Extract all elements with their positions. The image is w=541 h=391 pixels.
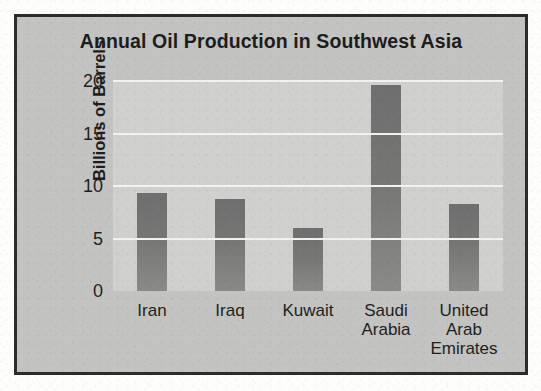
x-label-line: Emirates (430, 339, 497, 358)
x-label-line: Kuwait (282, 301, 333, 320)
chart-screenshot: Annual Oil Production in Southwest Asia … (0, 0, 541, 391)
x-label-line: Arabia (361, 320, 410, 339)
x-label-line: Saudi (364, 301, 407, 320)
bar-united-arab-emirates (449, 204, 479, 291)
x-label-line: Arab (446, 320, 482, 339)
plot-area: Country IranIraqKuwaitSaudiArabiaUnitedA… (113, 81, 503, 291)
x-axis-label-united-arab-emirates: UnitedArabEmirates (416, 301, 512, 358)
y-axis-tick-5: 5 (63, 230, 103, 248)
bar-saudi-arabia (371, 85, 401, 291)
gridline-10 (113, 185, 503, 187)
gridline-20 (113, 80, 503, 82)
y-axis-tick-20: 20 (63, 72, 103, 90)
y-axis-tick-15: 15 (63, 125, 103, 143)
x-label-line: Iran (137, 301, 166, 320)
y-axis-tick-10: 10 (63, 177, 103, 195)
x-label-line: United (439, 301, 488, 320)
x-label-line: Iraq (215, 301, 244, 320)
chart-frame: Annual Oil Production in Southwest Asia … (14, 14, 528, 375)
bar-iran (137, 193, 167, 291)
bar-iraq (215, 199, 245, 291)
y-axis-tick-0: 0 (63, 282, 103, 300)
gridline-15 (113, 133, 503, 135)
gridline-5 (113, 238, 503, 240)
